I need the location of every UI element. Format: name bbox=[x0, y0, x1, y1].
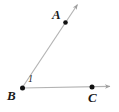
point-label-c: C bbox=[88, 91, 97, 104]
point-label-b: B bbox=[7, 89, 16, 102]
point-a-dot bbox=[63, 20, 68, 25]
angle-label-1: 1 bbox=[28, 74, 33, 84]
ray-BC-group bbox=[22, 86, 110, 88]
angle-diagram: A B C 1 bbox=[0, 0, 119, 112]
point-label-a: A bbox=[52, 8, 61, 21]
point-c-dot bbox=[90, 85, 95, 90]
ray-bc-line bbox=[22, 86, 110, 88]
point-b-dot bbox=[20, 86, 25, 91]
